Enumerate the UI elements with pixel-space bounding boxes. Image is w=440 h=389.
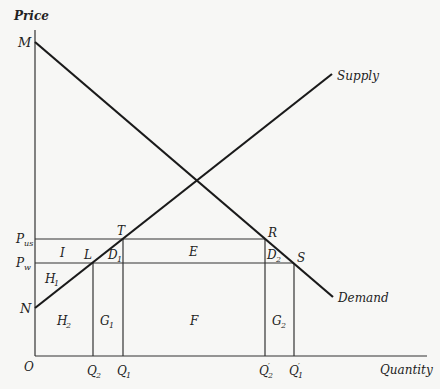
demand-label: Demand bbox=[337, 291, 389, 305]
svg-text:w: w bbox=[24, 263, 31, 272]
svg-text:2: 2 bbox=[267, 371, 273, 380]
point-r-label: R bbox=[267, 226, 277, 240]
svg-text:′: ′ bbox=[298, 361, 300, 370]
demand-curve bbox=[35, 42, 333, 297]
area-g1-label: G 1 bbox=[100, 314, 114, 330]
area-f-label: F bbox=[189, 314, 199, 328]
area-d1-label: D 1 bbox=[107, 248, 122, 264]
p-w-label: P w bbox=[15, 256, 31, 272]
q1-prime-label: Q 1 ′ bbox=[289, 361, 303, 380]
q1-label: Q 1 bbox=[117, 364, 131, 380]
price-axis-label: Price bbox=[13, 9, 49, 23]
point-n-label: N bbox=[19, 301, 32, 316]
supply-curve bbox=[35, 74, 332, 308]
quantity-axis-label: Quantity bbox=[380, 363, 433, 377]
point-s-label: S bbox=[297, 251, 305, 265]
point-t-label: T bbox=[117, 224, 126, 238]
svg-text:1: 1 bbox=[109, 321, 114, 330]
q2-label: Q 2 bbox=[87, 364, 101, 380]
point-m-label: M bbox=[17, 35, 32, 50]
supply-demand-diagram: Price Quantity O Supply Demand M N T L R… bbox=[0, 0, 440, 389]
svg-text:2: 2 bbox=[280, 321, 286, 330]
svg-text:2: 2 bbox=[65, 321, 71, 330]
area-e-label: E bbox=[188, 245, 198, 259]
origin-label: O bbox=[24, 360, 34, 374]
svg-text:1: 1 bbox=[298, 371, 303, 380]
svg-text:us: us bbox=[24, 239, 33, 248]
area-g2-label: G 2 bbox=[272, 314, 286, 330]
svg-text:2: 2 bbox=[275, 255, 281, 264]
svg-text:2: 2 bbox=[95, 371, 101, 380]
svg-text:1: 1 bbox=[117, 255, 122, 264]
q2-prime-label: Q 2 ′ bbox=[259, 361, 273, 380]
svg-text:1: 1 bbox=[126, 371, 131, 380]
supply-label: Supply bbox=[337, 69, 379, 83]
svg-text:1: 1 bbox=[54, 279, 59, 288]
area-h2-label: H 2 bbox=[56, 314, 71, 330]
area-h1-label: H 1 bbox=[44, 272, 59, 288]
svg-text:′: ′ bbox=[268, 361, 270, 370]
p-us-label: P us bbox=[15, 232, 33, 248]
area-i-label: I bbox=[59, 246, 65, 260]
point-l-label: L bbox=[83, 248, 92, 262]
